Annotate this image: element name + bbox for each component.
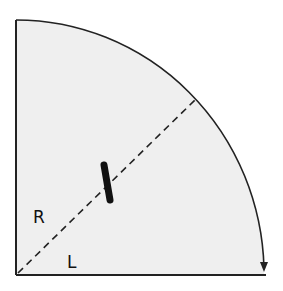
sector-fill [16, 20, 264, 275]
quarter-circle-diagram: R L [0, 0, 283, 291]
label-r: R [33, 207, 45, 227]
label-l: L [67, 252, 77, 272]
